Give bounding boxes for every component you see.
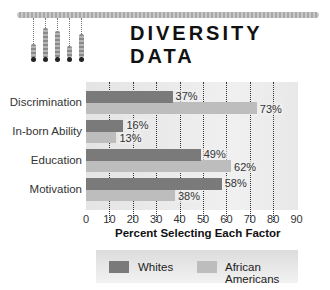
- data-label: 49%: [203, 148, 227, 160]
- bar-whites: [86, 120, 123, 132]
- data-label: 73%: [259, 103, 283, 115]
- bar-whites: [86, 178, 222, 190]
- bar-whites: [86, 149, 201, 161]
- category-label: In-born Ability: [12, 125, 82, 137]
- category-label: Education: [31, 154, 82, 166]
- page-title: DIVERSITY DATA: [130, 22, 330, 68]
- bar-african-americans: [86, 189, 175, 201]
- bar-african-americans: [86, 102, 257, 114]
- bar-graph-logo-icon: [30, 18, 90, 62]
- data-label: 13%: [118, 132, 142, 144]
- category-label: Motivation: [30, 183, 82, 195]
- legend-label-african-americans: African Americans: [225, 261, 298, 285]
- x-tick-label: 20: [127, 213, 139, 225]
- x-tick-label: 90: [290, 213, 302, 225]
- x-tick-label: 80: [267, 213, 279, 225]
- bar-african-americans: [86, 131, 116, 143]
- x-tick-label: 30: [150, 213, 162, 225]
- legend-swatch-whites: [109, 261, 129, 273]
- x-tick-label: 70: [244, 213, 256, 225]
- legend-label-whites: Whites: [138, 261, 173, 273]
- data-label: 38%: [177, 190, 201, 202]
- data-label: 16%: [125, 119, 149, 131]
- x-axis-label: Percent Selecting Each Factor: [115, 227, 281, 239]
- x-tick-label: 50: [197, 213, 209, 225]
- legend-swatch-african-americans: [197, 261, 217, 273]
- data-label: 62%: [233, 161, 257, 173]
- bar-whites: [86, 91, 173, 103]
- x-tick-label: 10: [103, 213, 115, 225]
- category-label: Discrimination: [10, 96, 82, 108]
- x-tick-label: 60: [220, 213, 232, 225]
- x-tick-label: 40: [173, 213, 185, 225]
- x-tick-label: 0: [83, 213, 89, 225]
- bar-african-americans: [86, 160, 231, 172]
- legend: Whites African Americans: [96, 250, 298, 283]
- data-label: 58%: [224, 177, 248, 189]
- data-label: 37%: [175, 90, 199, 102]
